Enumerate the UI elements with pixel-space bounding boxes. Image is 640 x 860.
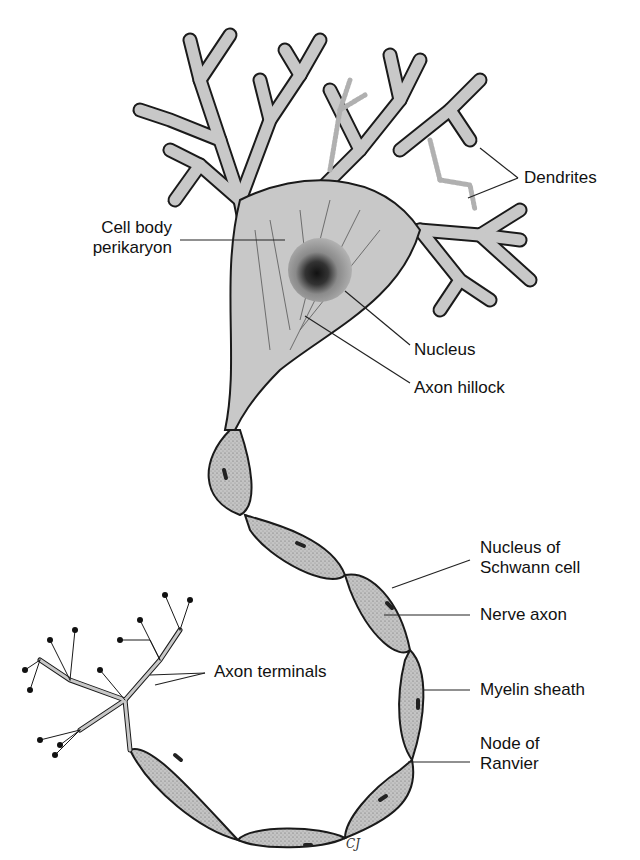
neuron-diagram: CJ <box>0 0 640 860</box>
label-schwann-line2: Schwann cell <box>480 558 580 578</box>
label-schwann-nucleus: Nucleus of Schwann cell <box>480 538 580 578</box>
label-nucleus: Nucleus <box>414 340 475 360</box>
nucleus <box>288 238 352 302</box>
label-axon-hillock: Axon hillock <box>414 378 505 398</box>
label-node-of-ranvier: Node of Ranvier <box>480 734 540 774</box>
label-schwann-line1: Nucleus of <box>480 538 580 558</box>
cell-body <box>225 180 420 430</box>
label-node-line1: Node of <box>480 734 540 754</box>
label-cell-body: Cell body perikaryon <box>68 218 172 258</box>
label-axon-terminals: Axon terminals <box>214 662 326 682</box>
label-cell-body-line1: Cell body <box>68 218 172 238</box>
label-myelin-sheath: Myelin sheath <box>480 680 585 700</box>
label-dendrites: Dendrites <box>524 168 597 188</box>
label-cell-body-line2: perikaryon <box>68 238 172 258</box>
label-node-line2: Ranvier <box>480 754 540 774</box>
label-nerve-axon: Nerve axon <box>480 605 567 625</box>
axon-terminals <box>22 592 193 758</box>
artist-signature: CJ <box>346 837 361 851</box>
